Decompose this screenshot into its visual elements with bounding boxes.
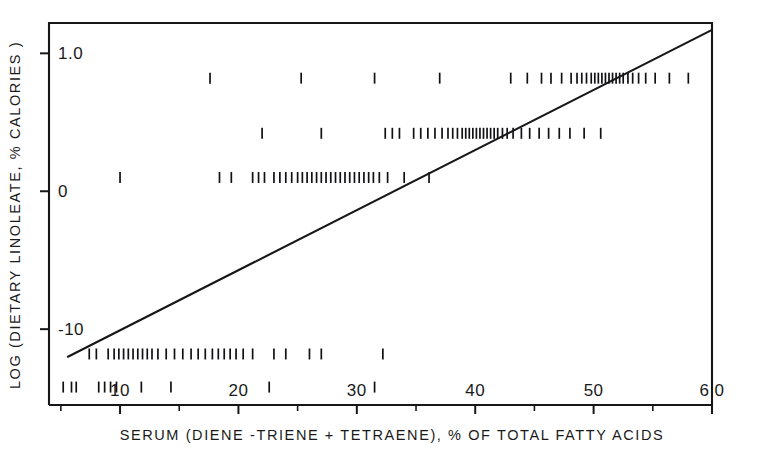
y-tick-label: -10 [58, 320, 84, 339]
y-axis: 1.00-10 [40, 44, 84, 339]
x-tick-label: 40 [465, 381, 485, 400]
scatter-plot-svg: 1.00-10 10203040506 0 SERUM (DIENE -TRIE… [0, 0, 784, 467]
x-tick-label: 6 0 [699, 381, 724, 400]
figure-container: 1.00-10 10203040506 0 SERUM (DIENE -TRIE… [0, 0, 784, 467]
x-tick-label: 30 [347, 381, 367, 400]
x-axis: 10203040506 0 [61, 381, 725, 414]
x-tick-label: 50 [584, 381, 604, 400]
x-tick-label: 20 [228, 381, 248, 400]
y-tick-label: 1.0 [58, 44, 83, 63]
x-tick-label: 10 [110, 381, 130, 400]
data-band [262, 128, 601, 139]
data-band [120, 172, 429, 183]
data-band [63, 382, 374, 393]
y-tick-label: 0 [58, 182, 68, 201]
x-axis-title: SERUM (DIENE -TRIENE + TETRAENE), % OF T… [120, 427, 665, 443]
y-axis-title: LOG (DIETARY LINOLEATE, % CALORIES ) [7, 41, 23, 389]
regression-line [68, 30, 712, 357]
data-points-layer [63, 73, 688, 393]
regression-line-layer [68, 30, 712, 357]
data-band [89, 348, 383, 359]
